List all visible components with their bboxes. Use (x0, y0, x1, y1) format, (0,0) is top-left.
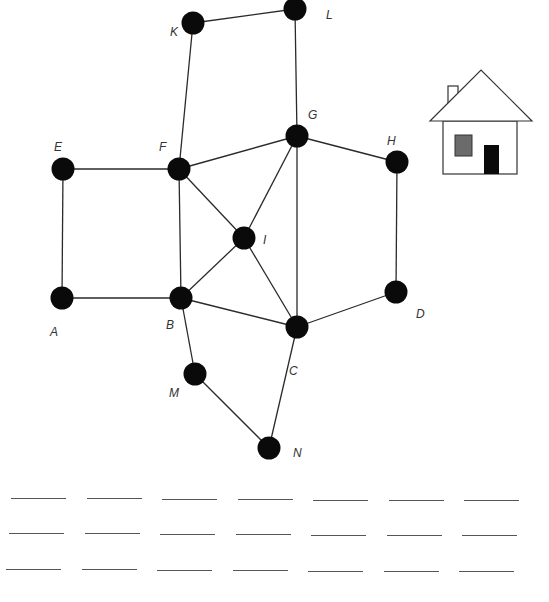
answer-blank[interactable] (160, 534, 215, 535)
node-M (184, 363, 207, 386)
edge-I-B (181, 238, 244, 298)
answer-blank[interactable] (233, 570, 288, 571)
node-label-H: H (387, 134, 396, 148)
node-D (385, 281, 408, 304)
edge-M-N (195, 374, 269, 448)
house-icon (430, 70, 532, 174)
node-K (182, 12, 205, 35)
answer-blank[interactable] (308, 571, 363, 572)
house-door (484, 145, 499, 174)
edge-I-C (244, 238, 297, 327)
node-L (284, 0, 307, 21)
answer-blank[interactable] (464, 500, 519, 501)
edge-F-I (179, 169, 244, 238)
answer-blank[interactable] (87, 498, 142, 499)
answer-blank[interactable] (462, 535, 517, 536)
answer-blank[interactable] (236, 534, 291, 535)
answer-blank[interactable] (311, 535, 366, 536)
node-E (52, 158, 75, 181)
node-I (233, 227, 256, 250)
edge-C-N (269, 327, 297, 448)
node-label-L: L (326, 8, 333, 22)
edge-E-A (62, 169, 63, 298)
answer-blank[interactable] (85, 533, 140, 534)
edge-D-C (297, 292, 396, 327)
answer-blank[interactable] (11, 498, 66, 499)
node-label-G: G (308, 108, 317, 122)
answer-blank[interactable] (313, 500, 368, 501)
edge-F-B (179, 169, 181, 298)
node-C (286, 316, 309, 339)
node-label-F: F (159, 140, 166, 154)
node-label-B: B (166, 318, 174, 332)
node-A (51, 287, 74, 310)
graph-nodes (51, 0, 409, 460)
edge-B-C (181, 298, 297, 327)
answer-blank[interactable] (162, 499, 217, 500)
node-label-E: E (54, 140, 62, 154)
answer-blank[interactable] (459, 571, 514, 572)
node-B (170, 287, 193, 310)
edge-H-D (396, 162, 397, 292)
node-label-D: D (416, 307, 425, 321)
edge-G-H (297, 136, 397, 162)
answer-blank[interactable] (387, 535, 442, 536)
graph-edges (62, 9, 397, 448)
answer-blank[interactable] (82, 569, 137, 570)
edge-K-L (193, 9, 295, 23)
edge-L-G (295, 9, 297, 136)
answer-blank[interactable] (6, 569, 61, 570)
edge-G-I (244, 136, 297, 238)
node-label-N: N (293, 446, 302, 460)
graph-diagram (0, 0, 549, 602)
node-label-K: K (170, 25, 178, 39)
answer-blank[interactable] (157, 570, 212, 571)
edge-B-M (181, 298, 195, 374)
edge-F-G (179, 136, 297, 169)
node-label-A: A (50, 325, 58, 339)
answer-blank[interactable] (238, 499, 293, 500)
node-label-I: I (263, 233, 266, 247)
node-H (386, 151, 409, 174)
node-label-C: C (289, 364, 298, 378)
edge-K-F (179, 23, 193, 169)
house-window (455, 135, 472, 156)
node-label-M: M (169, 386, 179, 400)
node-N (258, 437, 281, 460)
answer-blank[interactable] (389, 500, 444, 501)
answer-blank[interactable] (9, 533, 64, 534)
node-G (286, 125, 309, 148)
answer-blank[interactable] (384, 571, 439, 572)
node-F (168, 158, 191, 181)
